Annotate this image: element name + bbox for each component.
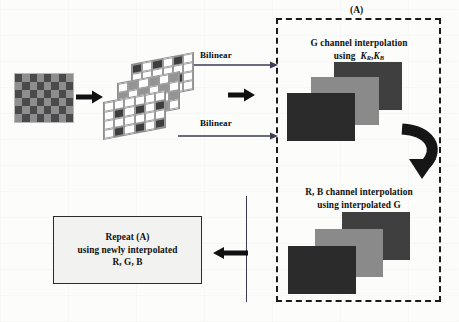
mosaic-cell [22,90,29,98]
planes-to-region-arrow-icon [228,86,258,104]
mosaic-cell [51,98,58,106]
mosaic-cell [30,98,37,106]
mosaic-cell [66,98,73,106]
plane-cell [114,126,124,137]
g-interpolation-line1: G channel interpolation [311,38,408,48]
mosaic-cell [30,82,37,90]
plane-cell [169,99,179,110]
repeat-line3: R, G, B [112,257,142,267]
rb-interpolation-line2: using interpolated G [317,200,401,210]
mosaic-cell [66,82,73,90]
mosaic-cell [30,90,37,98]
mosaic-cell [15,82,22,90]
repeat-line2: using newly interpolated [77,245,177,255]
mosaic-cell [22,114,29,122]
mosaic-cell [15,106,22,114]
mosaic-cell [44,90,51,98]
rb-stack-tile-front [288,246,356,294]
plane-cell [124,124,134,135]
mosaic-cell [30,74,37,82]
bilinear-label-top: Bilinear [200,50,232,60]
repeat-step-caption: Repeat (A) using newly interpolated R, G… [77,231,177,269]
mosaic-cell [37,98,44,106]
mosaic-cell [15,74,22,82]
plane-cell [155,118,165,129]
mosaic-to-planes-arrow-icon [76,88,106,106]
mosaic-cell [15,90,22,98]
mosaic-cell [51,74,58,82]
mosaic-cell [15,114,22,122]
mosaic-cell [22,82,29,90]
mosaic-cell [66,114,73,122]
mosaic-cell [37,106,44,114]
bilinear-label-bottom: Bilinear [200,118,232,128]
mosaic-cell [44,74,51,82]
mosaic-cell [22,98,29,106]
mosaic-cell [66,90,73,98]
mosaic-cell [30,106,37,114]
mosaic-cell [66,106,73,114]
curved-down-arrow-icon [396,126,442,184]
mosaic-cell [59,74,66,82]
mosaic-cell [59,98,66,106]
mosaic-cell [51,114,58,122]
figure-canvas: Bilinear Bilinear (A) G channel interpol… [0,0,459,322]
mosaic-cell [37,82,44,90]
mosaic-cell [44,106,51,114]
mosaic-cell [51,82,58,90]
mosaic-cell [22,74,29,82]
mosaic-cell [30,114,37,122]
repeat-step-box: Repeat (A) using newly interpolated R, G… [53,216,202,284]
g-stack-tile-front [287,93,355,141]
mosaic-cell [37,74,44,82]
mosaic-cell [44,98,51,106]
feedback-left-arrow-icon [212,246,250,260]
mosaic-cell [37,114,44,122]
plane-cell [183,80,193,91]
repeat-line1: Repeat (A) [105,232,149,242]
bilinear-arrow-top-icon [192,60,280,70]
plane-cell [104,128,114,139]
mosaic-cell [59,106,66,114]
mosaic-cell [59,90,66,98]
kernel-kb: KB [374,51,385,61]
rb-interpolation-caption: R, B channel interpolation using interpo… [283,186,435,211]
mosaic-cell [51,106,58,114]
g-interpolation-caption: G channel interpolation using KR,KB [283,37,435,64]
region-a-label: (A) [347,5,366,15]
bayer-mosaic-image [14,73,74,123]
plane-cell [145,120,155,131]
mosaic-cell [51,90,58,98]
channel-plane-front [103,90,166,140]
g-interpolation-line2-prefix: using [334,51,356,61]
mosaic-cell [59,82,66,90]
plane-cell [135,122,145,133]
mosaic-cell [66,74,73,82]
kernel-kr: KR [360,51,371,61]
mosaic-cell [15,98,22,106]
bilinear-arrow-bottom-icon [178,131,280,141]
mosaic-cell [44,82,51,90]
mosaic-cell [44,114,51,122]
mosaic-cell [37,90,44,98]
mosaic-cell [22,106,29,114]
rb-channel-image-stack [282,212,432,296]
rb-interpolation-line1: R, B channel interpolation [305,187,412,197]
mosaic-cell [59,114,66,122]
